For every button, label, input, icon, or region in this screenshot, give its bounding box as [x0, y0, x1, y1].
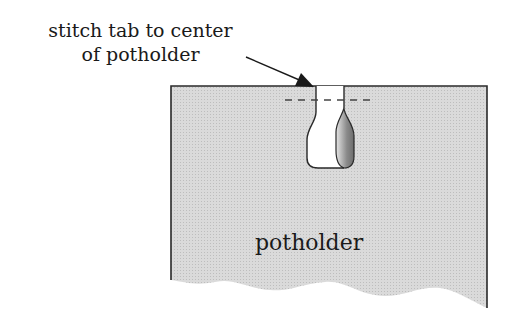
callout-text: stitch tab to center of potholder [33, 18, 248, 66]
potholder-label: potholder [255, 230, 363, 255]
callout-line-2: of potholder [33, 42, 248, 66]
arrow-icon [246, 57, 314, 87]
callout-line-1: stitch tab to center [33, 18, 248, 42]
